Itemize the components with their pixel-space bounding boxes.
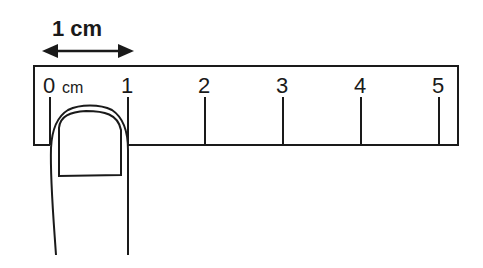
tick-label-4: 4 xyxy=(354,73,366,98)
thumbnail-outline xyxy=(59,111,121,176)
unit-label: cm xyxy=(62,79,83,96)
tick-label-1: 1 xyxy=(121,73,133,98)
tick-label-0: 0 xyxy=(43,73,55,98)
thumb-icon xyxy=(51,106,128,256)
tick-label-2: 2 xyxy=(198,73,210,98)
ruler-diagram: 1 cm 0 cm 1 2 3 4 5 xyxy=(0,0,483,268)
tick-label-3: 3 xyxy=(276,73,288,98)
double-arrow-icon xyxy=(42,44,134,58)
tick-label-5: 5 xyxy=(432,73,444,98)
one-cm-label: 1 cm xyxy=(52,16,102,41)
ruler-ticks xyxy=(50,97,439,145)
thumb-outline xyxy=(51,106,128,256)
